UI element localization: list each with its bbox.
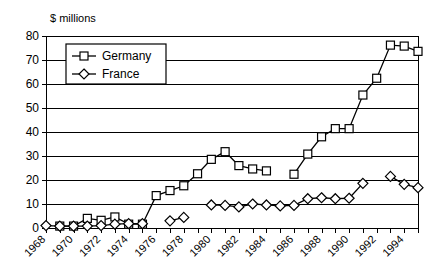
y-axis-tick-labels: 01020304050607080 <box>26 29 40 235</box>
y-tick-label-60: 60 <box>26 77 40 91</box>
x-tick-label-1994: 1994 <box>380 233 406 259</box>
x-tick-label-1988: 1988 <box>297 233 323 259</box>
x-tick-label-1986: 1986 <box>270 233 296 259</box>
data-point-germany-1981 <box>221 148 229 156</box>
data-point-france-1984 <box>261 200 271 210</box>
x-axis-tick-labels: 1968197019721974197619781980198219841986… <box>22 233 406 259</box>
data-point-france-1988 <box>317 193 327 203</box>
x-tick-label-1984: 1984 <box>242 233 268 259</box>
data-point-france-1986 <box>289 200 299 210</box>
x-tick-label-1990: 1990 <box>325 233 351 259</box>
data-point-germany-1991 <box>359 91 367 99</box>
data-point-france-1968 <box>41 221 51 231</box>
series-line-france-2 <box>211 183 363 207</box>
x-tick-label-1976: 1976 <box>132 233 158 259</box>
data-point-france-1982 <box>234 202 244 212</box>
data-point-germany-1995 <box>414 47 422 55</box>
data-point-germany-1987 <box>304 150 312 158</box>
chart-container: 01020304050607080 1968197019721974197619… <box>0 0 437 280</box>
data-point-germany-1979 <box>194 170 202 178</box>
x-tick-label-1982: 1982 <box>215 233 241 259</box>
data-point-germany-1980 <box>207 155 215 163</box>
data-point-germany-1983 <box>249 165 257 173</box>
line-chart: 01020304050607080 1968197019721974197619… <box>0 0 437 280</box>
data-point-france-1980 <box>206 200 216 210</box>
legend-label-france: France <box>102 67 140 81</box>
data-point-france-1985 <box>275 201 285 211</box>
data-point-germany-1989 <box>331 125 339 133</box>
y-tick-label-10: 10 <box>26 197 40 211</box>
data-point-france-1981 <box>220 200 230 210</box>
data-point-france-1987 <box>303 194 313 204</box>
y-axis <box>42 36 47 232</box>
data-point-germany-1993 <box>386 41 394 49</box>
y-tick-label-70: 70 <box>26 53 40 67</box>
data-point-france-1995 <box>413 183 423 193</box>
data-point-germany-1977 <box>166 187 174 195</box>
data-point-germany-1982 <box>235 162 243 170</box>
y-tick-label-40: 40 <box>26 125 40 139</box>
data-point-germany-1978 <box>180 182 188 190</box>
data-point-france-1993 <box>385 171 395 181</box>
x-tick-label-1980: 1980 <box>187 233 213 259</box>
y-tick-label-80: 80 <box>26 29 40 43</box>
x-tick-label-1992: 1992 <box>352 233 378 259</box>
data-point-germany-1994 <box>400 42 408 50</box>
series-line-germany-1 <box>294 45 418 174</box>
y-tick-label-30: 30 <box>26 149 40 163</box>
data-point-france-1978 <box>179 212 189 222</box>
data-point-france-1977 <box>165 216 175 226</box>
x-tick-label-1978: 1978 <box>159 233 185 259</box>
data-point-germany-1986 <box>290 170 298 178</box>
x-tick-label-1972: 1972 <box>77 233 103 259</box>
y-axis-title: $ millions <box>50 12 96 24</box>
x-tick-label-1974: 1974 <box>104 233 130 259</box>
data-point-france-1983 <box>248 199 258 209</box>
legend-label-germany: Germany <box>102 49 151 63</box>
data-point-germany-1976 <box>152 192 160 200</box>
x-tick-label-1968: 1968 <box>22 233 48 259</box>
x-tick-label-1970: 1970 <box>49 233 75 259</box>
chart-legend: GermanyFrance <box>66 44 166 84</box>
data-point-germany-1992 <box>373 74 381 82</box>
data-point-france-1989 <box>330 194 340 204</box>
y-tick-label-50: 50 <box>26 101 40 115</box>
legend-marker-germany <box>80 52 88 60</box>
y-tick-label-20: 20 <box>26 173 40 187</box>
data-point-germany-1984 <box>262 167 270 175</box>
data-point-germany-1988 <box>318 133 326 141</box>
data-point-germany-1990 <box>345 125 353 133</box>
